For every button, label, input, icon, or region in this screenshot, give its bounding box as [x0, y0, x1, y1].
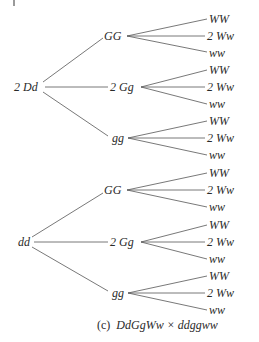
branch-node: gg	[112, 132, 124, 144]
caption-cross: DdGgWw × ddggww	[116, 318, 217, 332]
leaf-node: WW	[209, 167, 229, 179]
leaf-node: 2 Ww	[207, 30, 234, 42]
leaf-node: ww	[209, 47, 225, 59]
leaf-node: 2 Ww	[207, 236, 234, 248]
leaf-node: WW	[209, 13, 229, 25]
figure-caption: (c) DdGgWw × ddggww	[97, 319, 218, 332]
leaf-node: WW	[209, 64, 229, 76]
leaf-node: 2 Ww	[207, 184, 234, 196]
leaf-node: ww	[209, 304, 225, 316]
branch-node: 2 Gg	[110, 81, 134, 93]
branch-node: gg	[112, 287, 124, 299]
root-node-dd-hom: dd	[18, 236, 30, 248]
leaf-node: 2 Ww	[207, 132, 234, 144]
leaf-node: 2 Ww	[207, 287, 234, 299]
root-node-dd-het: 2 Dd	[14, 81, 38, 93]
caption-prefix: (c)	[97, 318, 110, 332]
leaf-node: ww	[209, 253, 225, 265]
leaf-node: ww	[209, 201, 225, 213]
leaf-node: WW	[209, 219, 229, 231]
branch-node: 2 Gg	[110, 236, 134, 248]
leaf-node: ww	[209, 98, 225, 110]
leaf-node: WW	[209, 115, 229, 127]
branch-node: GG	[104, 184, 121, 196]
branch-node: GG	[104, 30, 121, 42]
leaf-node: WW	[209, 270, 229, 282]
leaf-node: ww	[209, 149, 225, 161]
leaf-node: 2 Ww	[207, 81, 234, 93]
